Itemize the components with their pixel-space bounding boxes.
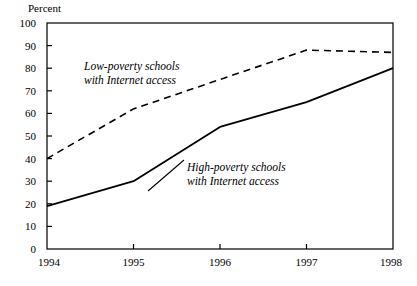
x-axis-tick-labels: 1994 1995 1996 1997 1998 bbox=[0, 0, 417, 286]
x-tick-1997: 1997 bbox=[296, 257, 318, 268]
line-chart: Percent 100 90 80 bbox=[0, 0, 417, 286]
x-tick-1994: 1994 bbox=[38, 257, 60, 268]
annotation-low-poverty-line2: with Internet access bbox=[84, 74, 180, 88]
annotation-low-poverty-line1: Low-poverty schools bbox=[84, 60, 180, 74]
annotation-high-poverty-line1: High-poverty schools bbox=[187, 161, 286, 175]
series-annotation-low-poverty: Low-poverty schools with Internet access bbox=[84, 60, 180, 87]
x-tick-1995: 1995 bbox=[123, 257, 145, 268]
x-tick-1998: 1998 bbox=[380, 257, 402, 268]
annotation-high-poverty-line2: with Internet access bbox=[187, 175, 286, 189]
x-tick-1996: 1996 bbox=[209, 257, 231, 268]
series-annotation-high-poverty: High-poverty schools with Internet acces… bbox=[187, 161, 286, 188]
